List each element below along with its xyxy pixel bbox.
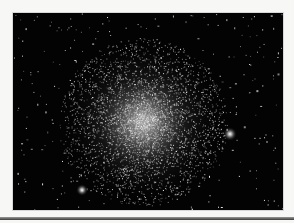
starfield-canvas — [13, 13, 283, 210]
star-cluster-photo — [13, 13, 283, 210]
bottom-divider — [0, 217, 294, 220]
